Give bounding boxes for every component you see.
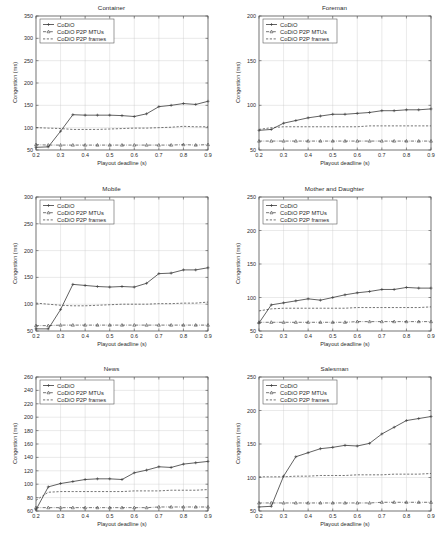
x-tick-label: 0.4 bbox=[304, 333, 312, 339]
series-line-codio bbox=[36, 101, 208, 147]
x-tick-label: 0.8 bbox=[403, 513, 411, 519]
legend-label: CoDiO P2P MTUs bbox=[57, 210, 104, 216]
legend-label: CoDiO P2P frames bbox=[57, 217, 106, 223]
y-axis-label: Congestion (ms) bbox=[235, 423, 241, 464]
x-tick-label: 0.6 bbox=[354, 152, 362, 158]
subplot-mother-and-daughter: Mother and Daughter0.20.30.40.50.60.70.8… bbox=[223, 181, 446, 361]
y-tick-label: 180 bbox=[24, 428, 33, 434]
y-tick-label: 150 bbox=[247, 261, 256, 267]
plot-area: 0.20.30.40.50.60.70.80.950100150200CoDiO… bbox=[223, 0, 446, 181]
y-tick-label: 120 bbox=[24, 468, 33, 474]
y-tick-label: 80 bbox=[27, 495, 33, 501]
y-tick-label: 100 bbox=[247, 102, 256, 108]
y-axis-label: Congestion (ms) bbox=[12, 423, 18, 464]
series-line-codio-p2p-frames bbox=[36, 490, 208, 501]
y-tick-label: 250 bbox=[247, 194, 256, 200]
y-tick-label: 350 bbox=[24, 13, 33, 19]
x-tick-label: 0.8 bbox=[180, 333, 188, 339]
y-tick-label: 200 bbox=[247, 408, 256, 414]
x-tick-label: 0.7 bbox=[155, 513, 163, 519]
x-tick-label: 0.2 bbox=[255, 152, 263, 158]
y-tick-label: 100 bbox=[24, 301, 33, 307]
x-tick-label: 0.8 bbox=[180, 513, 188, 519]
legend-label: CoDiO P2P frames bbox=[57, 397, 106, 403]
plot-area: 0.20.30.40.50.60.70.80.950100150200250Co… bbox=[223, 181, 446, 361]
y-tick-label: 220 bbox=[24, 401, 33, 407]
series-line-codio bbox=[36, 461, 208, 509]
y-tick-label: 140 bbox=[24, 454, 33, 460]
x-tick-label: 0.5 bbox=[106, 152, 114, 158]
subplot-salesman: Salesman0.20.30.40.50.60.70.80.950100150… bbox=[223, 361, 446, 542]
y-tick-label: 160 bbox=[24, 441, 33, 447]
series-line-codio bbox=[259, 417, 431, 507]
y-tick-label: 250 bbox=[24, 58, 33, 64]
y-tick-label: 250 bbox=[24, 221, 33, 227]
subplot-container: Container0.20.30.40.50.60.70.80.95010015… bbox=[0, 0, 223, 181]
y-tick-label: 150 bbox=[24, 274, 33, 280]
y-tick-label: 50 bbox=[250, 508, 256, 514]
y-tick-label: 50 bbox=[250, 328, 256, 334]
x-tick-label: 0.9 bbox=[204, 333, 212, 339]
legend: CoDiOCoDiO P2P MTUsCoDiO P2P frames bbox=[40, 200, 114, 224]
series-line-codio-p2p-frames bbox=[259, 307, 431, 311]
legend: CoDiOCoDiO P2P MTUsCoDiO P2P frames bbox=[263, 380, 337, 404]
legend-label: CoDiO bbox=[57, 22, 75, 28]
y-tick-label: 260 bbox=[24, 374, 33, 380]
legend-label: CoDiO bbox=[57, 383, 75, 389]
x-tick-label: 0.8 bbox=[180, 152, 188, 158]
x-tick-label: 0.9 bbox=[427, 333, 435, 339]
y-tick-label: 200 bbox=[247, 228, 256, 234]
subplot-news: News0.20.30.40.50.60.70.80.9608010012014… bbox=[0, 361, 223, 542]
x-tick-label: 0.7 bbox=[155, 152, 163, 158]
x-tick-label: 0.8 bbox=[403, 333, 411, 339]
x-tick-label: 0.2 bbox=[255, 513, 263, 519]
legend: CoDiOCoDiO P2P MTUsCoDiO P2P frames bbox=[263, 200, 337, 224]
y-tick-label: 200 bbox=[24, 80, 33, 86]
x-tick-label: 0.7 bbox=[378, 513, 386, 519]
legend-label: CoDiO bbox=[280, 22, 298, 28]
y-tick-label: 150 bbox=[247, 441, 256, 447]
y-axis-label: Congestion (ms) bbox=[235, 243, 241, 284]
x-axis-label: Playout deadline (s) bbox=[36, 521, 208, 527]
y-tick-label: 50 bbox=[27, 147, 33, 153]
x-axis-label: Playout deadline (s) bbox=[36, 341, 208, 347]
series-line-codio bbox=[259, 109, 431, 130]
plot-area: 0.20.30.40.50.60.70.80.95010015020025030… bbox=[0, 0, 223, 181]
y-tick-label: 50 bbox=[250, 147, 256, 153]
legend-label: CoDiO P2P MTUs bbox=[57, 390, 104, 396]
series-line-codio-p2p-frames bbox=[259, 126, 431, 130]
x-tick-label: 0.6 bbox=[354, 333, 362, 339]
plot-area: 0.20.30.40.50.60.70.80.95010015020025030… bbox=[0, 181, 223, 361]
y-tick-label: 50 bbox=[27, 328, 33, 334]
y-tick-label: 250 bbox=[247, 374, 256, 380]
legend-label: CoDiO P2P frames bbox=[57, 36, 106, 42]
x-tick-label: 0.3 bbox=[280, 152, 288, 158]
x-tick-label: 0.3 bbox=[57, 152, 65, 158]
x-tick-label: 0.2 bbox=[32, 513, 40, 519]
y-tick-label: 100 bbox=[24, 481, 33, 487]
x-tick-label: 0.4 bbox=[81, 513, 89, 519]
x-tick-label: 0.5 bbox=[106, 513, 114, 519]
x-tick-label: 0.9 bbox=[204, 152, 212, 158]
x-tick-label: 0.6 bbox=[131, 152, 139, 158]
x-tick-label: 0.9 bbox=[427, 152, 435, 158]
legend: CoDiOCoDiO P2P MTUsCoDiO P2P frames bbox=[40, 19, 114, 43]
legend: CoDiOCoDiO P2P MTUsCoDiO P2P frames bbox=[40, 380, 114, 404]
y-tick-label: 100 bbox=[247, 475, 256, 481]
legend-label: CoDiO P2P MTUs bbox=[57, 29, 104, 35]
y-tick-label: 200 bbox=[247, 13, 256, 19]
x-tick-label: 0.9 bbox=[204, 513, 212, 519]
y-tick-label: 200 bbox=[24, 248, 33, 254]
y-tick-label: 300 bbox=[24, 35, 33, 41]
legend-label: CoDiO P2P frames bbox=[280, 217, 329, 223]
y-axis-label: Congestion (ms) bbox=[12, 62, 18, 103]
legend-label: CoDiO P2P MTUs bbox=[280, 210, 327, 216]
y-axis-label: Congestion (ms) bbox=[12, 243, 18, 284]
legend-label: CoDiO P2P frames bbox=[280, 36, 329, 42]
y-tick-label: 100 bbox=[24, 125, 33, 131]
x-tick-label: 0.4 bbox=[81, 152, 89, 158]
x-tick-label: 0.6 bbox=[131, 513, 139, 519]
figure-canvas: Container0.20.30.40.50.60.70.80.95010015… bbox=[0, 0, 446, 542]
x-tick-label: 0.2 bbox=[32, 333, 40, 339]
subplot-mobile: Mobile0.20.30.40.50.60.70.80.95010015020… bbox=[0, 181, 223, 361]
